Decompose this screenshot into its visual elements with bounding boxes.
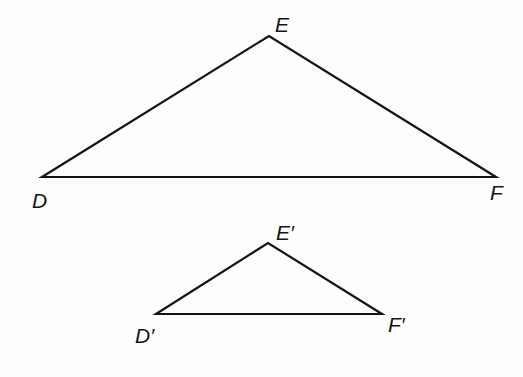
triangle-def-outline [42,36,496,177]
vertex-label-f: F [490,181,504,204]
triangle-d-prime-e-prime-f-prime-outline [156,243,382,314]
triangle-d-prime-e-prime-f-prime: D′ E′ F′ [135,221,406,347]
vertex-label-e: E [275,13,290,36]
triangle-def: D E F [32,13,504,212]
similar-triangles-diagram: D E F D′ E′ F′ [0,0,523,377]
vertex-label-d-prime: D′ [135,324,155,347]
vertex-label-d: D [32,189,47,212]
vertex-label-e-prime: E′ [276,221,295,244]
vertex-label-f-prime: F′ [388,313,406,336]
